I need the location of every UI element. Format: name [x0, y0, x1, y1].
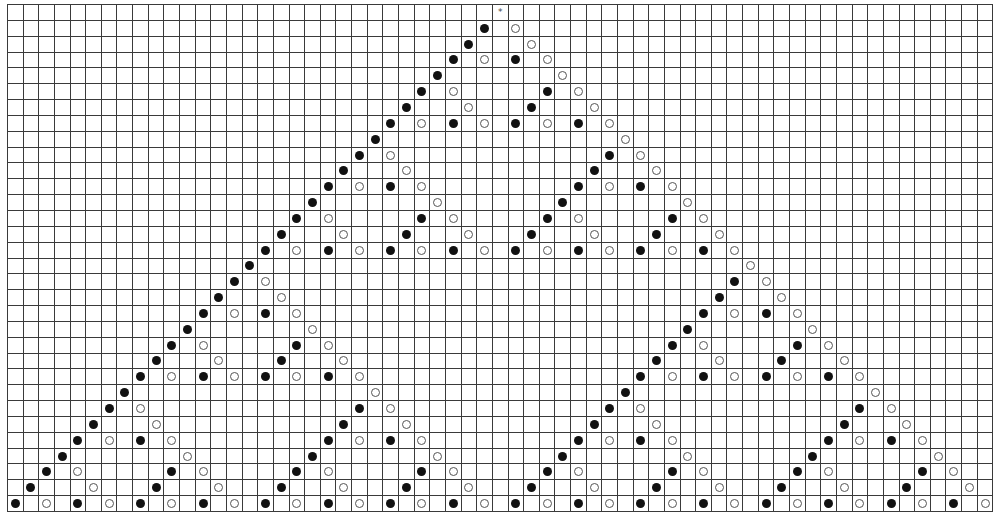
grid-cell [477, 369, 493, 385]
grid-cell [180, 322, 196, 338]
grid-cell [133, 148, 149, 164]
hollow-circle-icon [230, 372, 239, 381]
grid-cell [274, 53, 290, 69]
grid-cell [587, 21, 603, 37]
grid-cell [133, 5, 149, 21]
grid-cell [383, 53, 399, 69]
grid-cell [258, 496, 274, 512]
grid-cell [258, 5, 274, 21]
hollow-circle-icon [105, 436, 114, 445]
grid-cell [39, 243, 55, 259]
grid-cell [368, 306, 384, 322]
hollow-circle-icon [605, 119, 614, 128]
grid-cell [821, 37, 837, 53]
grid-cell [868, 84, 884, 100]
grid-cell [180, 480, 196, 496]
grid-cell [180, 417, 196, 433]
grid-cell [681, 100, 697, 116]
grid-cell [24, 385, 40, 401]
grid-cell [555, 68, 571, 84]
grid-cell [196, 148, 212, 164]
grid-cell [571, 464, 587, 480]
grid-cell [649, 306, 665, 322]
grid-cell [743, 306, 759, 322]
grid-cell [634, 132, 650, 148]
grid-cell [180, 132, 196, 148]
grid-cell [462, 433, 478, 449]
grid-cell [180, 179, 196, 195]
grid-cell [274, 84, 290, 100]
grid-cell [696, 243, 712, 259]
grid-cell [102, 322, 118, 338]
grid-cell [430, 259, 446, 275]
grid-cell [618, 37, 634, 53]
grid-cell [290, 195, 306, 211]
grid-cell [602, 480, 618, 496]
grid-cell [853, 417, 869, 433]
grid-cell [462, 5, 478, 21]
grid-cell [55, 369, 71, 385]
grid-cell [117, 354, 133, 370]
grid-cell [759, 243, 775, 259]
grid-cell [821, 227, 837, 243]
grid-cell [634, 68, 650, 84]
grid-cell [133, 290, 149, 306]
grid-cell [368, 53, 384, 69]
grid-cell [978, 480, 994, 496]
grid-cell [774, 369, 790, 385]
filled-circle-icon [840, 420, 849, 429]
grid-cell [759, 306, 775, 322]
hollow-circle-icon [574, 467, 583, 476]
grid-cell [462, 385, 478, 401]
grid-cell [336, 211, 352, 227]
grid-cell [39, 338, 55, 354]
grid-cell [305, 163, 321, 179]
grid-cell [962, 354, 978, 370]
grid-cell [55, 417, 71, 433]
grid-cell [837, 84, 853, 100]
grid-cell [446, 179, 462, 195]
grid-cell [86, 274, 102, 290]
hollow-circle-icon [574, 87, 583, 96]
grid-cell [149, 417, 165, 433]
grid-cell [524, 21, 540, 37]
grid-cell [524, 464, 540, 480]
grid-cell [493, 369, 509, 385]
grid-cell [884, 259, 900, 275]
grid-cell [274, 211, 290, 227]
grid-cell [321, 433, 337, 449]
grid-cell [133, 464, 149, 480]
hollow-circle-icon [230, 499, 239, 508]
grid-cell [462, 179, 478, 195]
grid-cell [430, 211, 446, 227]
grid-cell [540, 37, 556, 53]
grid-cell [243, 369, 259, 385]
grid-cell [415, 401, 431, 417]
grid-cell [946, 433, 962, 449]
grid-cell [837, 211, 853, 227]
grid-cell [743, 227, 759, 243]
grid-cell [759, 449, 775, 465]
grid-cell [321, 417, 337, 433]
grid-cell [368, 274, 384, 290]
grid-cell [86, 227, 102, 243]
grid-cell [634, 417, 650, 433]
grid-cell [383, 306, 399, 322]
grid-cell [227, 148, 243, 164]
grid-cell [509, 100, 525, 116]
filled-circle-icon [26, 483, 35, 492]
grid-cell [415, 68, 431, 84]
grid-cell [258, 21, 274, 37]
hollow-circle-icon [636, 151, 645, 160]
grid-cell [368, 227, 384, 243]
grid-cell [164, 163, 180, 179]
grid-cell [618, 132, 634, 148]
grid-cell [430, 449, 446, 465]
grid-cell [39, 116, 55, 132]
filled-circle-icon [636, 246, 645, 255]
hollow-circle-icon [762, 277, 771, 286]
grid-cell [180, 290, 196, 306]
grid-cell [493, 274, 509, 290]
grid-cell [978, 290, 994, 306]
grid-cell [649, 259, 665, 275]
